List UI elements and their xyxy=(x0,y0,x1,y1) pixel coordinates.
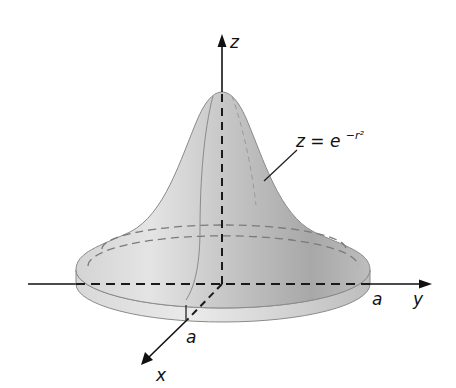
z-axis-arrowhead xyxy=(218,34,227,47)
x-axis-label: x xyxy=(155,365,167,385)
y-axis-arrowhead xyxy=(419,280,432,289)
equation-label: z = e −r² xyxy=(295,129,365,151)
equation-exponent: −r² xyxy=(346,129,365,142)
gaussian-surface-diagram: z y x a a z = e −r² xyxy=(0,0,456,388)
z-axis-label: z xyxy=(229,32,240,52)
radius-label-y: a xyxy=(372,289,382,309)
y-axis-label: y xyxy=(412,289,424,309)
x-axis xyxy=(148,320,187,358)
equation-lhs: z = e xyxy=(295,131,340,151)
equation-leader-line xyxy=(264,150,297,181)
radius-label-x: a xyxy=(186,327,196,347)
